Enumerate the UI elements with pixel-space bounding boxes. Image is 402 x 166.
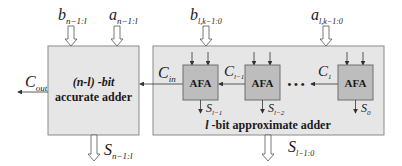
- afa-label: AFA: [345, 77, 367, 89]
- adder-block-diagram: (n-l) -bit accurate adder bn−1:l an−1:l …: [0, 0, 402, 166]
- afa-label: AFA: [190, 77, 212, 89]
- approximate-adder-title: l -bit approximate adder: [205, 118, 331, 132]
- ellipsis: • • •: [287, 78, 304, 90]
- label-s-high: Sn−1:l: [104, 141, 133, 161]
- accurate-adder-title-line1: (n-l) -bit: [73, 75, 115, 89]
- input-arrow-a-high: [111, 26, 123, 46]
- input-arrow-a-low: [320, 26, 332, 46]
- label-b-high: bn−1:l: [58, 6, 87, 26]
- label-b-low: bl,k−1:0: [190, 6, 222, 26]
- accurate-adder-block: (n-l) -bit accurate adder: [48, 46, 139, 135]
- accurate-adder-title-line2: accurate adder: [55, 90, 133, 104]
- label-cout: Cout: [25, 73, 48, 93]
- label-a-low: al,k−1:0: [311, 6, 343, 26]
- output-arrow-s-low: [262, 135, 274, 161]
- input-arrow-b-low: [200, 26, 212, 46]
- output-arrow-s-high: [88, 135, 100, 161]
- afa-label: AFA: [252, 77, 274, 89]
- input-arrow-b-high: [65, 26, 77, 46]
- label-s-low: Sl−1:0: [288, 138, 314, 158]
- label-a-high: an−1:l: [109, 6, 138, 26]
